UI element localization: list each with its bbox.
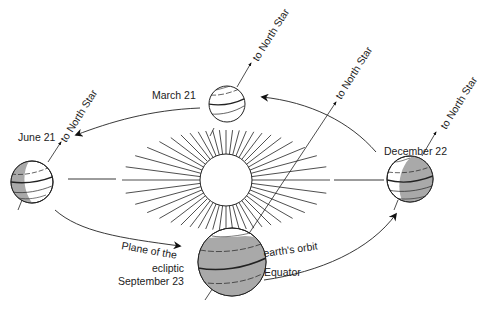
sun-ray <box>219 206 222 230</box>
sun-ray <box>190 201 210 227</box>
earth-december-22 <box>387 132 436 210</box>
label-north-star-march: to North Star <box>250 6 292 63</box>
label-north-star-december: to North Star <box>438 74 480 131</box>
sun-ray <box>252 183 326 193</box>
label-september-23: September 23 <box>118 275 184 287</box>
orbit-arc-december-to-march <box>262 97 376 152</box>
sun-ray <box>242 133 262 159</box>
sun-ray <box>190 133 210 159</box>
sun-ray <box>236 204 246 229</box>
orbit-arc-june-to-september <box>55 210 180 246</box>
label-ecliptic: ecliptic <box>152 262 184 274</box>
sun-ray <box>206 204 216 229</box>
label-earths-orbit: earth's orbit <box>263 239 319 258</box>
earth-june-21 <box>11 142 61 210</box>
label-plane-of-the: Plane of the <box>121 239 178 261</box>
earth-september-23 <box>198 228 268 300</box>
sun-ray <box>251 156 317 174</box>
label-june-21: June 21 <box>18 131 56 143</box>
label-north-star-june: to North Star <box>58 87 100 144</box>
sun-ray <box>135 187 201 205</box>
orbit-arc-march-to-june <box>76 108 200 135</box>
sun <box>122 130 330 230</box>
sun-ray <box>242 201 262 227</box>
earth-march-21 <box>208 63 251 136</box>
label-equator: Equator <box>264 266 301 278</box>
label-march-21: March 21 <box>152 89 196 101</box>
sun-ray <box>251 187 317 205</box>
sun-ray <box>252 167 326 177</box>
label-december-22: December 22 <box>384 145 447 157</box>
label-north-star-september: to North Star <box>333 44 375 101</box>
sun-ray <box>236 131 246 156</box>
sun-ray <box>229 206 232 230</box>
earth-orbit-diagram: March 21 June 21 December 22 September 2… <box>0 0 496 312</box>
sun-ray <box>219 130 222 154</box>
sun-ray <box>135 156 201 174</box>
sun-ray <box>229 130 232 154</box>
sun-ray <box>126 167 201 177</box>
sun-ray <box>126 183 201 193</box>
